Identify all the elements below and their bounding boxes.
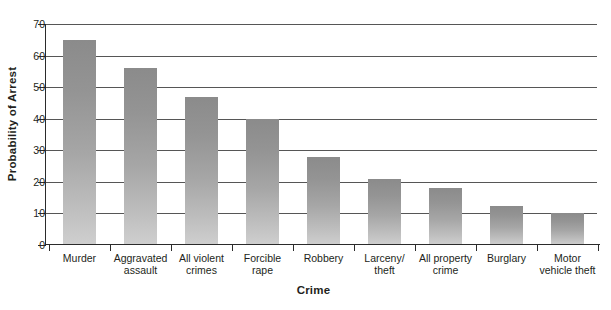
x-tick-mark <box>537 245 538 251</box>
x-tick-mark <box>415 245 416 251</box>
x-category-label: All violentcrimes <box>171 252 233 276</box>
x-category-label-line: Aggravated <box>110 252 172 264</box>
x-category-label-line: All violent <box>171 252 233 264</box>
x-category-label: Motorvehicle theft <box>537 252 599 276</box>
x-category-label: All propertycrime <box>415 252 477 276</box>
bar[interactable] <box>490 206 523 245</box>
gridline <box>46 56 597 57</box>
x-category-label-line: Larceny/ <box>354 252 416 264</box>
x-category-label: Murder <box>49 252 111 264</box>
bar[interactable] <box>551 213 584 245</box>
y-tick-label: 20 <box>11 177 45 188</box>
x-category-label: Robbery <box>293 252 355 264</box>
plot-area <box>46 24 597 245</box>
bar[interactable] <box>307 157 340 245</box>
y-axis-ticks: 010203040506070 <box>0 0 45 310</box>
bar-chart: Probability of Arrest 010203040506070 Mu… <box>0 0 611 310</box>
x-category-label-line: Forcible <box>232 252 294 264</box>
x-tick-mark <box>476 245 477 251</box>
x-tick-mark <box>354 245 355 251</box>
x-tick-mark <box>110 245 111 251</box>
x-category-label: Larceny/theft <box>354 252 416 276</box>
x-tick-mark <box>49 245 50 251</box>
x-category-label-line: Burglary <box>476 252 538 264</box>
x-category-label-line: Motor <box>537 252 599 264</box>
x-axis-title-text: Crime <box>297 284 331 296</box>
bar[interactable] <box>429 188 462 245</box>
y-tick-label: 70 <box>11 19 45 30</box>
x-category-label-line: theft <box>354 264 416 276</box>
y-tick-label: 30 <box>11 145 45 156</box>
x-category-label: Aggravatedassault <box>110 252 172 276</box>
x-category-label: Forciblerape <box>232 252 294 276</box>
x-tick-mark <box>232 245 233 251</box>
x-category-label-line: crime <box>415 264 477 276</box>
bar[interactable] <box>124 68 157 245</box>
x-tick-mark <box>171 245 172 251</box>
y-tick-label: 0 <box>11 240 45 251</box>
bar[interactable] <box>246 119 279 245</box>
y-tick-label: 40 <box>11 113 45 124</box>
bar[interactable] <box>368 179 401 245</box>
x-axis-title: Crime <box>0 284 611 296</box>
x-tick-mark <box>293 245 294 251</box>
bar[interactable] <box>63 40 96 245</box>
x-axis-line <box>46 244 600 245</box>
x-category-label-line: vehicle theft <box>537 264 599 276</box>
y-tick-label: 50 <box>11 82 45 93</box>
x-category-label: Burglary <box>476 252 538 264</box>
x-category-label-line: assault <box>110 264 172 276</box>
gridline <box>46 24 597 25</box>
x-category-label-line: rape <box>232 264 294 276</box>
y-tick-label: 60 <box>11 50 45 61</box>
x-category-label-line: Robbery <box>293 252 355 264</box>
x-category-label-line: crimes <box>171 264 233 276</box>
x-category-label-line: All property <box>415 252 477 264</box>
x-category-label-line: Murder <box>49 252 111 264</box>
x-tick-mark <box>598 245 599 251</box>
bar[interactable] <box>185 97 218 245</box>
y-tick-label: 10 <box>11 208 45 219</box>
